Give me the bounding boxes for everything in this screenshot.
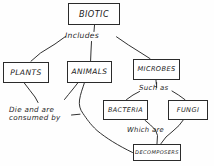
node-microbes[interactable]: MICROBES xyxy=(133,59,180,80)
node-fungi[interactable]: FUNGI xyxy=(168,100,208,120)
brace-tick xyxy=(72,114,81,115)
edge-microbes-bacteria xyxy=(127,92,140,100)
edge-plants-brace xyxy=(25,83,39,102)
edge-animals-brace xyxy=(65,83,78,99)
edge-label-which-are: Which are xyxy=(127,127,164,135)
node-biotic[interactable]: BIOTIC xyxy=(68,3,120,25)
node-animals[interactable]: ANIMALS xyxy=(67,61,112,83)
edge-label-die-and-are-consumed-by: Die and are consumed by xyxy=(9,106,61,123)
edge-fungi-decomposers xyxy=(161,120,183,143)
edge-label-includes: Includes xyxy=(65,32,99,41)
concept-map-canvas: BIOTIC PLANTS ANIMALS MICROBES BACTERIA … xyxy=(0,0,214,166)
edge-biotic-plants xyxy=(31,37,66,62)
edge-biotic-animals xyxy=(91,42,92,61)
edge-label-such-as: Such as xyxy=(139,84,168,92)
node-decomposers[interactable]: DECOMPOSERS xyxy=(133,144,181,161)
edge-biotic-microbes xyxy=(117,37,151,59)
node-bacteria[interactable]: BACTERIA xyxy=(103,100,148,120)
edge-microbes-fungi xyxy=(172,91,185,100)
node-plants[interactable]: PLANTS xyxy=(3,62,49,83)
